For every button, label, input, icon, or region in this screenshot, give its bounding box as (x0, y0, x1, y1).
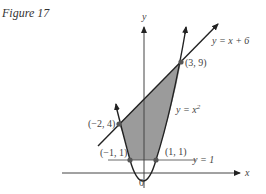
point-neg1-1 (127, 157, 132, 162)
label-point-3-9: (3, 9) (185, 57, 207, 69)
label-line: y = x + 6 (211, 35, 249, 46)
x-axis-label: x (244, 167, 250, 178)
label-parabola: y = x2 (175, 103, 201, 115)
point-3-9 (178, 59, 183, 64)
label-y1: y = 1 (192, 154, 214, 165)
label-point-neg2-4: (−2, 4) (88, 118, 115, 130)
origin-label: 0 (139, 177, 144, 188)
plot: y x 0 y = x + 6 y = x2 y = 1 (3, 9) (−2,… (0, 0, 266, 194)
y-axis-label: y (141, 11, 147, 22)
parabola-right-arrow (185, 27, 186, 34)
label-point-1-1: (1, 1) (165, 146, 187, 158)
parabola-left-arrow (116, 104, 117, 110)
point-1-1 (153, 157, 158, 162)
label-point-neg1-1: (−1, 1) (100, 147, 127, 159)
point-neg2-4 (116, 121, 121, 126)
